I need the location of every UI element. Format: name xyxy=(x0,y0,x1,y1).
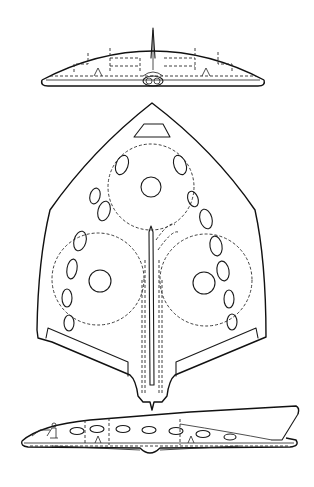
plan-view xyxy=(37,103,266,410)
front-view xyxy=(42,28,265,86)
three-view-drawing xyxy=(0,0,314,487)
side-view xyxy=(22,406,299,453)
